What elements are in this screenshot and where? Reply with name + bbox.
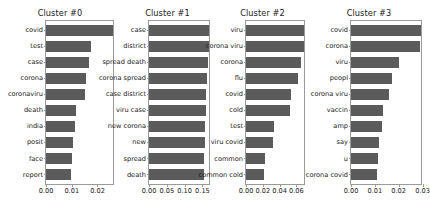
y-tick-mark [349, 174, 352, 175]
plot-axes: covidtestcasecoronacoronavirudeathindiap… [45, 20, 114, 185]
x-axis: 0.000.050.100.15 [149, 184, 209, 208]
y-tick-mark [244, 46, 247, 47]
plot-axes: virucorona virucoronaflucovidcoldtestvir… [245, 20, 305, 185]
bar-row: face [46, 153, 113, 165]
bar-row: cold [246, 105, 304, 117]
bar-row: flu [246, 72, 304, 84]
x-tick-label: 0.05 [159, 188, 174, 195]
bar [46, 41, 91, 52]
bar [246, 105, 290, 116]
bar [149, 137, 205, 148]
bar-series: virucorona virucoronaflucovidcoldtestvir… [246, 21, 304, 184]
y-tick-mark [44, 142, 47, 143]
y-tick-label: viru [335, 59, 348, 66]
bar [46, 153, 72, 164]
bar-row: corona viru [351, 88, 421, 100]
y-tick-mark [349, 30, 352, 31]
x-axis: 0.000.020.040.06 [246, 184, 304, 208]
y-tick-label: report [23, 172, 43, 179]
y-tick-label: vaccin [327, 107, 348, 114]
bar-row: death [46, 105, 113, 117]
bar-row: common cold [246, 169, 304, 181]
bar [149, 57, 208, 68]
y-tick-mark [349, 78, 352, 79]
bar-row: case [149, 24, 209, 36]
y-tick-mark [44, 62, 47, 63]
y-tick-mark [147, 158, 150, 159]
panel-title: Cluster #1 [120, 8, 215, 18]
bar [246, 153, 265, 164]
y-tick-mark [147, 126, 150, 127]
bar-row: test [46, 40, 113, 52]
y-tick-label: u [344, 156, 348, 163]
y-tick-label: corona viru [311, 91, 348, 98]
y-tick-mark [349, 158, 352, 159]
x-tick-label: 0.02 [255, 188, 270, 195]
y-tick-label: coronaviru [8, 91, 43, 98]
bar [351, 105, 383, 116]
bar-row: corona [351, 40, 421, 52]
bar [46, 25, 113, 36]
y-tick-mark [44, 30, 47, 31]
y-tick-mark [44, 158, 47, 159]
bar-row: test [246, 121, 304, 133]
y-tick-label: flu [235, 75, 243, 82]
y-tick-label: face [29, 156, 43, 163]
x-axis: 0.000.010.020.03 [351, 184, 421, 208]
bar-row: amp [351, 121, 421, 133]
bar [351, 89, 389, 100]
bar [246, 169, 264, 180]
bar [351, 169, 377, 180]
bar [246, 73, 298, 84]
bar-row: posit [46, 137, 113, 149]
x-tick-label: 0.02 [391, 188, 406, 195]
bar [149, 25, 209, 36]
plot-axes: casedistrictspread deathcorona spreadcas… [148, 20, 210, 185]
bar [246, 89, 291, 100]
bar [149, 153, 204, 164]
y-tick-label: viru covid [211, 139, 243, 146]
y-tick-mark [244, 142, 247, 143]
bar [351, 57, 399, 68]
panel-title: Cluster #3 [310, 8, 428, 18]
bar-row: peopl [351, 72, 421, 84]
y-tick-label: corona viru [206, 43, 243, 50]
y-tick-label: viru case [116, 107, 146, 114]
bar-row: case district [149, 88, 209, 100]
y-tick-mark [147, 94, 150, 95]
bar [351, 137, 379, 148]
y-tick-mark [244, 94, 247, 95]
bar [246, 25, 304, 36]
bar-row: viru covid [246, 137, 304, 149]
x-tick-label: 0.02 [90, 188, 105, 195]
bar-row: corona viru [246, 40, 304, 52]
y-tick-mark [244, 78, 247, 79]
bar [351, 41, 420, 52]
y-tick-mark [244, 62, 247, 63]
x-tick-label: 0.03 [415, 188, 430, 195]
bar [246, 121, 274, 132]
cluster-panel-2: Cluster #2virucorona virucoronaflucovidc… [215, 0, 310, 221]
bar [351, 25, 421, 36]
bar-row: common [246, 153, 304, 165]
bar-series: covidcoronavirupeoplcorona viruvaccinamp… [351, 21, 421, 184]
y-tick-mark [244, 158, 247, 159]
y-tick-label: cold [229, 107, 243, 114]
bar [149, 73, 207, 84]
y-tick-label: spread death [102, 59, 146, 66]
bar [46, 89, 85, 100]
x-tick-label: 0.15 [195, 188, 210, 195]
y-tick-mark [147, 62, 150, 63]
bar [46, 105, 76, 116]
y-tick-mark [349, 126, 352, 127]
bar [149, 89, 206, 100]
x-tick-label: 0.06 [289, 188, 304, 195]
y-tick-label: corona covid [306, 172, 348, 179]
bar-row: viru case [149, 105, 209, 117]
y-tick-label: corona [21, 75, 43, 82]
bar [46, 137, 73, 148]
y-tick-mark [147, 30, 150, 31]
y-tick-mark [44, 78, 47, 79]
bar-row: district [149, 40, 209, 52]
